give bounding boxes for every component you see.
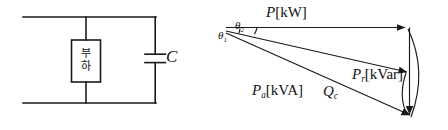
real-power-symbol: P — [266, 4, 275, 20]
load-box-label: 부 하 — [73, 42, 99, 80]
apparent-power-symbol: P — [252, 82, 261, 98]
theta1-label: θ1 — [218, 30, 227, 41]
capacitor-label: C — [166, 48, 177, 65]
capacitive-reactive-symbol: Q — [323, 83, 334, 99]
theta2-angle-arc — [255, 28, 258, 34]
power-triangle-phasor-diagram: P[kW] Pr[kVar] Pa[kVA] Qc θ1 θ2 — [200, 0, 448, 130]
circuit-diagram: 부 하 C — [0, 0, 200, 130]
apparent-power-unit: [kVA] — [266, 82, 303, 98]
reactive-power-label: Pr[kVar] — [352, 67, 403, 82]
reactive-power-unit: [kVar] — [365, 66, 403, 82]
theta2-label: θ2 — [235, 20, 244, 31]
apparent-power-label: Pa[kVA] — [252, 83, 303, 98]
theta2-subscript: 2 — [240, 26, 243, 33]
reactive-power-symbol: P — [352, 66, 361, 82]
real-power-unit: [kW] — [275, 4, 307, 20]
capacitive-reactive-subscript: c — [334, 91, 338, 101]
theta1-subscript: 1 — [223, 36, 226, 43]
real-power-label: P[kW] — [266, 5, 307, 20]
figure-canvas: 부 하 C — [0, 0, 448, 130]
reactive-power-subscript: r — [361, 74, 365, 84]
capacitive-reactive-label: Qc — [323, 84, 338, 99]
apparent-power-subscript: a — [261, 90, 266, 100]
load-box-label-line2: 하 — [81, 61, 91, 74]
